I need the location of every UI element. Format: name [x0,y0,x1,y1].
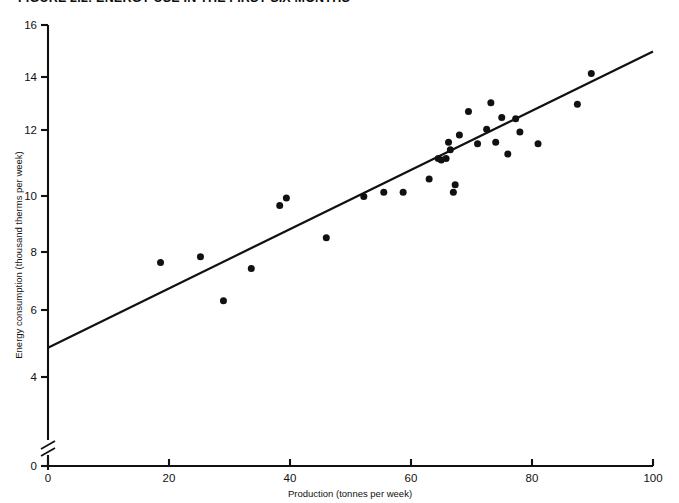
y-axis [41,25,55,470]
y-tick-label: 0 [31,460,37,472]
x-tick-label: 0 [45,472,51,484]
axis-break-icon [41,441,55,456]
data-point [492,139,499,146]
y-tick-label: 8 [31,246,37,258]
data-point [452,181,459,188]
data-point [323,234,330,241]
data-point [248,265,255,272]
data-point [487,99,494,106]
data-point [456,132,463,139]
scatter-plot: 16 14 12 10 8 6 4 0 Energy consumption (… [0,0,679,503]
data-point [157,259,164,266]
y-axis-title: Energy consumption (thousand therms per … [13,151,24,359]
x-tick-label: 20 [163,472,176,484]
y-tick-label: 10 [24,190,37,202]
data-point [220,297,227,304]
data-point [512,115,519,122]
data-point [426,176,433,183]
data-point [443,155,450,162]
y-tick-label: 6 [31,304,37,316]
y-tick-label: 14 [24,71,37,83]
data-point [535,140,542,147]
data-point [197,253,204,260]
data-point [447,146,454,153]
data-point [498,114,505,121]
data-point [276,202,283,209]
data-point [474,140,481,147]
x-tick-label: 100 [643,472,662,484]
data-point [588,70,595,77]
data-point [360,193,367,200]
figure-container: FIGURE 2.2: ENERGY USE IN THE FIRST SIX … [0,0,679,503]
data-point [445,139,452,146]
data-point [483,126,490,133]
x-tick-label: 80 [526,472,539,484]
data-point [283,195,290,202]
x-axis-title: Production (tonnes per week) [288,488,412,499]
data-point [504,151,511,158]
regression-line [48,51,653,347]
x-tick-label: 60 [405,472,418,484]
data-point [574,101,581,108]
x-tick-labels: 0 20 40 60 80 100 [45,472,663,484]
data-point [450,189,457,196]
y-tick-label: 16 [24,19,37,31]
data-point [516,129,523,136]
data-point [380,189,387,196]
regression-line-segment [48,51,653,347]
data-point [465,108,472,115]
y-tick-label: 12 [24,124,37,136]
x-tick-label: 40 [284,472,297,484]
y-tick-labels: 16 14 12 10 8 6 4 0 [24,19,37,472]
data-point [400,189,407,196]
y-tick-label: 4 [31,371,38,383]
